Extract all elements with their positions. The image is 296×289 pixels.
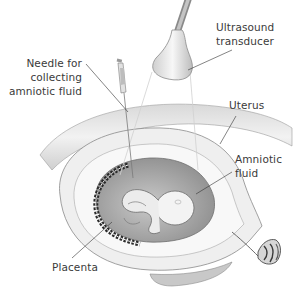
transducer-leader-line (188, 50, 232, 70)
needle-label-line-2: collecting (9, 70, 82, 84)
placenta-label-line-1: Placenta (52, 260, 98, 274)
amniocentesis-diagram: Needle for collecting amniotic fluid Ult… (0, 0, 296, 289)
needle-label-line-1: Needle for (9, 56, 82, 70)
ultrasound-transducer (153, 0, 193, 80)
transducer-label-line-2: transducer (216, 34, 274, 48)
placenta-label: Placenta (52, 260, 98, 274)
uterus-label: Uterus (229, 98, 264, 112)
amniotic-fluid-label: Amniotic fluid (235, 152, 282, 180)
needle-label: Needle for collecting amniotic fluid (9, 56, 82, 98)
uterus-label-line-1: Uterus (229, 98, 264, 112)
transducer-label-line-1: Ultrasound (216, 20, 274, 34)
amniotic-fluid-label-line-1: Amniotic (235, 152, 282, 166)
amniotic-fluid-label-line-2: fluid (235, 166, 282, 180)
transducer-label: Ultrasound transducer (216, 20, 274, 48)
needle-label-line-3: amniotic fluid (9, 84, 82, 98)
